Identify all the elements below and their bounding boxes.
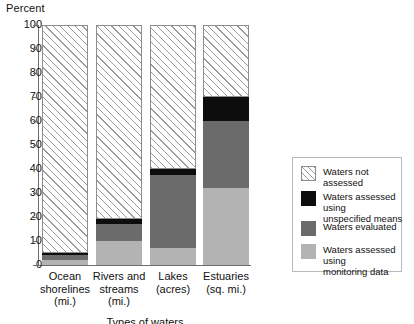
y-axis-tick-mark xyxy=(33,73,39,74)
bar-2[interactable] xyxy=(150,25,196,265)
legend-item-evaluated[interactable]: Waters evaluated xyxy=(301,221,405,236)
plot-area xyxy=(42,25,250,265)
legend-label: Waters assessed usingunspecified means xyxy=(323,191,405,224)
legend-swatch-unspecified-icon xyxy=(301,191,316,206)
legend-swatch-evaluated-icon xyxy=(301,221,316,236)
legend-item-not-assessed[interactable]: Waters not assessed xyxy=(301,166,405,188)
y-axis-tick-label: 50 xyxy=(0,138,42,150)
y-axis-tick-mark xyxy=(33,49,39,50)
y-axis-tick-mark xyxy=(33,193,39,194)
category-label-line: (sq. mi.) xyxy=(180,283,272,296)
y-axis-tick-label: 60 xyxy=(0,114,42,126)
bar-segment-monitoring[interactable] xyxy=(96,241,142,265)
legend-label-line: monitoring data xyxy=(323,266,405,277)
category-label-line: Estuaries xyxy=(180,270,272,283)
y-axis-tick-label: 20 xyxy=(0,210,42,222)
y-axis-tick-label: 30 xyxy=(0,186,42,198)
legend-label-line: Waters not assessed xyxy=(323,166,405,188)
legend-item-monitoring[interactable]: Waters assessed usingmonitoring data xyxy=(301,244,405,277)
y-axis-tick-label: 90 xyxy=(0,42,42,54)
y-axis-tick-mark xyxy=(33,145,39,146)
y-axis-tick-mark xyxy=(33,241,39,242)
bar-segment-evaluated[interactable] xyxy=(96,224,142,241)
bar-3[interactable] xyxy=(203,25,249,265)
bar-segment-evaluated[interactable] xyxy=(203,121,249,188)
bar-segment-evaluated[interactable] xyxy=(150,175,196,248)
legend-label: Waters assessed usingmonitoring data xyxy=(323,244,405,277)
bar-1[interactable] xyxy=(96,25,142,265)
y-axis-tick-mark xyxy=(33,169,39,170)
y-axis-tick-mark xyxy=(33,25,39,26)
category-label-line: (mi.) xyxy=(73,295,165,308)
y-axis-tick-label: 0 xyxy=(0,258,42,270)
chart-legend: Waters not assessedWaters assessed using… xyxy=(292,157,402,272)
legend-swatch-monitoring-icon xyxy=(301,244,316,259)
bar-segment-unspecified[interactable] xyxy=(150,169,196,175)
bar-segment-evaluated[interactable] xyxy=(42,255,88,260)
chart-root: Percent 1009080706050403020100 Oceanshor… xyxy=(0,0,414,324)
bar-segment-unspecified[interactable] xyxy=(203,97,249,121)
bar-segment-monitoring[interactable] xyxy=(42,260,88,265)
y-axis-tick-mark xyxy=(33,217,39,218)
y-axis-tick-mark xyxy=(33,97,39,98)
legend-label-line: Waters assessed using xyxy=(323,191,405,213)
y-axis-tick-label: 100 xyxy=(0,18,42,30)
bar-segment-not-assessed[interactable] xyxy=(150,25,196,169)
legend-label-line: Waters evaluated xyxy=(323,221,405,232)
legend-item-unspecified[interactable]: Waters assessed usingunspecified means xyxy=(301,191,405,224)
legend-swatch-not-assessed-icon xyxy=(301,166,316,181)
bar-segment-not-assessed[interactable] xyxy=(42,25,88,253)
y-axis-title: Percent xyxy=(6,2,45,14)
x-axis-line xyxy=(38,265,251,266)
category-label-3: Estuaries(sq. mi.) xyxy=(180,270,272,295)
y-axis-tick-mark xyxy=(33,121,39,122)
y-axis-tick-mark xyxy=(33,265,39,266)
bar-0[interactable] xyxy=(42,25,88,265)
bar-segment-not-assessed[interactable] xyxy=(96,25,142,219)
legend-label-line: Waters assessed using xyxy=(323,244,405,266)
y-axis-tick-label: 70 xyxy=(0,90,42,102)
legend-label: Waters evaluated xyxy=(323,221,405,232)
y-axis-tick-label: 80 xyxy=(0,66,42,78)
legend-label: Waters not assessed xyxy=(323,166,405,188)
bar-segment-not-assessed[interactable] xyxy=(203,25,249,97)
bar-segment-monitoring[interactable] xyxy=(150,248,196,265)
bar-segment-monitoring[interactable] xyxy=(203,188,249,265)
bar-segment-unspecified[interactable] xyxy=(42,253,88,255)
x-axis-title: Types of waters xyxy=(0,316,290,324)
y-axis-tick-label: 40 xyxy=(0,162,42,174)
bar-segment-unspecified[interactable] xyxy=(96,219,142,224)
y-axis-tick-label: 10 xyxy=(0,234,42,246)
